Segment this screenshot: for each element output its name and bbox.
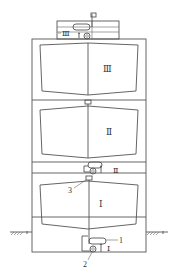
- stage-3-pump-label: Ⅲ: [62, 29, 70, 38]
- callout-2-leader: [88, 252, 92, 260]
- stage-2-label: Ⅱ: [106, 127, 112, 137]
- callout-1-label: 1: [119, 236, 123, 245]
- stage-1-label: Ⅰ: [99, 199, 103, 209]
- stage-2-chamber: [32, 100, 146, 162]
- stage-3-chamber: [32, 43, 146, 100]
- pump-station-diagram: Ⅲ Ⅲ Ⅱ Ⅱ Ⅰ 3: [0, 0, 177, 273]
- stage-1-float-tank: [89, 238, 106, 244]
- stage-1-chamber: [32, 176, 146, 244]
- vent-flag-icon: [91, 13, 96, 27]
- stage-3-pump-icon: [78, 32, 90, 39]
- callout-3-label: 3: [68, 186, 72, 195]
- callout-3-leader: [74, 180, 86, 188]
- stage-1-pump-label: Ⅰ: [107, 244, 110, 253]
- stage-2-pump-label: Ⅱ: [113, 166, 118, 175]
- callout-2-label: 2: [83, 260, 87, 269]
- stage-3-label: Ⅲ: [103, 64, 112, 74]
- stage-2-pump-room: [32, 162, 146, 174]
